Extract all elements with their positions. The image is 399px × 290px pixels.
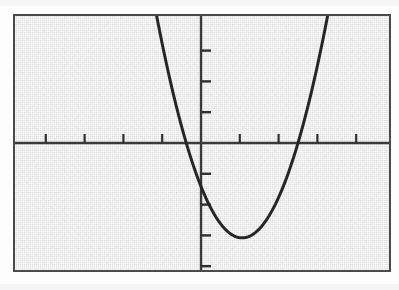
y-axis-ticks — [201, 51, 211, 267]
scan-bottom-smudge — [0, 284, 399, 290]
plot-canvas — [15, 16, 389, 270]
screenshot-root — [0, 0, 399, 290]
parabola-curve — [154, 16, 330, 238]
graph-frame — [13, 14, 391, 272]
scan-edge-smudge — [0, 0, 399, 6]
